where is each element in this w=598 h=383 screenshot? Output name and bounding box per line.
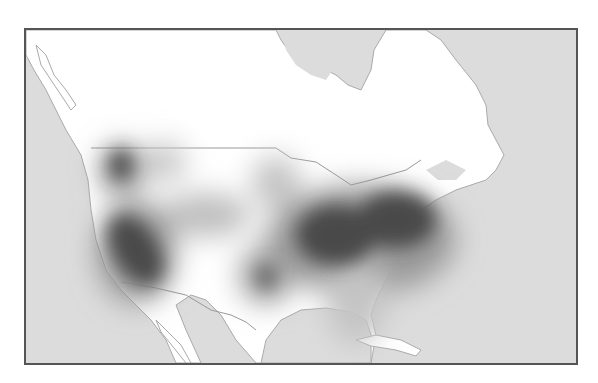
heatmap-map[interactable]: [26, 30, 576, 363]
heatmap-frame: [24, 28, 578, 365]
